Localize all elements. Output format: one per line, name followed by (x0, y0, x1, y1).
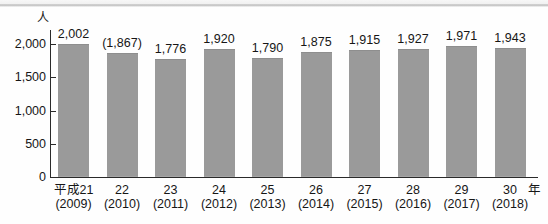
bar[interactable] (252, 58, 283, 177)
bar[interactable] (301, 52, 332, 177)
bar[interactable] (398, 49, 429, 177)
x-axis-suffix-label: 年 (528, 183, 541, 197)
bar[interactable] (107, 53, 138, 177)
x-axis-western-year: (2018) (479, 197, 541, 211)
bar[interactable] (349, 50, 380, 177)
bar-value-label: 1,943 (479, 32, 541, 45)
plot-area: 人 05001,0001,5002,000 2,002(1,867)1,7761… (0, 0, 548, 224)
bar[interactable] (58, 44, 89, 177)
bar[interactable] (495, 48, 526, 177)
bar[interactable] (446, 46, 477, 177)
bar[interactable] (155, 59, 186, 177)
bar[interactable] (204, 49, 235, 177)
bar-chart-figure: 人 05001,0001,5002,000 2,002(1,867)1,7761… (0, 0, 548, 224)
